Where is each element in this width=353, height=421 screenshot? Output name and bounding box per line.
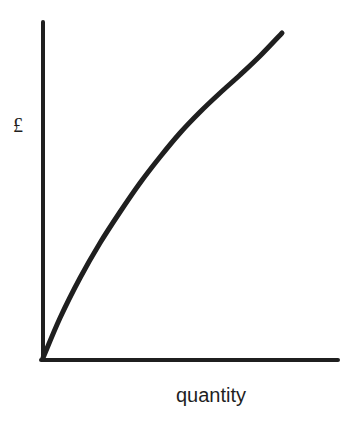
diagram-canvas: [0, 0, 353, 421]
curve-line: [43, 33, 282, 358]
x-axis-label: quantity: [176, 384, 246, 407]
y-axis-label: £: [13, 114, 23, 137]
